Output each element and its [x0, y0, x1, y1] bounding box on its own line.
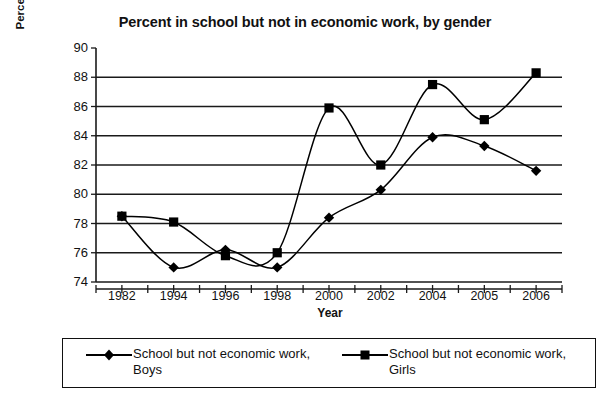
square-marker-icon — [341, 348, 389, 362]
y-tick-label: 76 — [48, 246, 88, 259]
chart-legend: School but not economic work, Boys Schoo… — [62, 338, 596, 388]
y-tick-label: 82 — [48, 158, 88, 171]
legend-entry-girls: School but not economic work, Girls — [341, 346, 594, 377]
data-point-marker — [427, 132, 437, 142]
x-tick-label: 2002 — [355, 290, 407, 303]
y-tick-label: 86 — [48, 100, 88, 113]
data-point-marker — [272, 262, 282, 272]
x-tick-label: 1998 — [251, 290, 303, 303]
data-point-marker — [169, 217, 178, 226]
x-axis-title: Year — [95, 306, 565, 320]
data-point-marker — [117, 212, 126, 221]
data-point-marker — [479, 141, 489, 151]
y-tick-label: 78 — [48, 217, 88, 230]
data-point-marker — [376, 160, 385, 169]
diamond-marker-icon — [85, 348, 133, 362]
chart-figure: Percent in school but not in economic wo… — [0, 0, 610, 412]
series-girls — [117, 68, 540, 266]
y-tick-label: 74 — [48, 275, 88, 288]
data-point-marker — [532, 68, 541, 77]
y-tick-label: 80 — [48, 187, 88, 200]
y-tick-label: 90 — [48, 41, 88, 54]
y-tick-label: 84 — [48, 129, 88, 142]
x-tick-label: 1994 — [148, 290, 200, 303]
data-point-marker — [324, 103, 333, 112]
x-tick-label: 2005 — [458, 290, 510, 303]
legend-label-boys: School but not economic work, Boys — [133, 346, 338, 377]
data-point-marker — [221, 251, 230, 260]
legend-label-girls: School but not economic work, Girls — [389, 346, 594, 377]
data-point-marker — [480, 115, 489, 124]
series-boys — [117, 132, 542, 273]
legend-entry-boys: School but not economic work, Boys — [85, 346, 338, 377]
x-tick-label: 2000 — [303, 290, 355, 303]
data-point-marker — [531, 166, 541, 176]
x-tick-label: 1996 — [199, 290, 251, 303]
x-tick-label: 1982 — [96, 290, 148, 303]
x-tick-label: 2006 — [510, 290, 562, 303]
x-tick-label: 2004 — [407, 290, 459, 303]
data-point-marker — [273, 248, 282, 257]
data-point-marker — [428, 80, 437, 89]
data-point-marker — [168, 262, 178, 272]
y-tick-label: 88 — [48, 70, 88, 83]
